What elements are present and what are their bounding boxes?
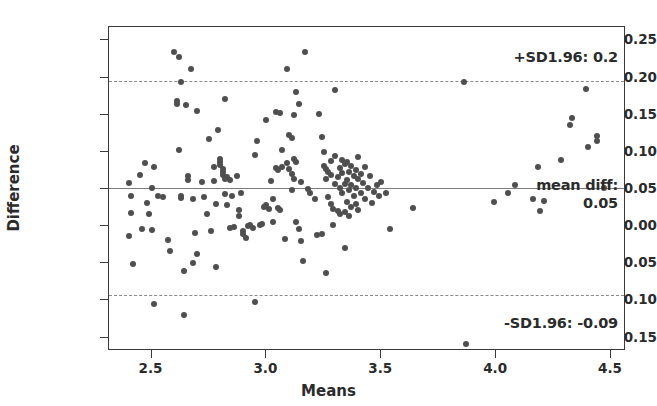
x-tick-label: 4.5 (580, 360, 640, 376)
upper-loa-line (109, 81, 624, 82)
data-point (194, 251, 200, 257)
data-point (583, 86, 589, 92)
data-point (358, 171, 364, 177)
plot-area: +SD1.96: 0.2 mean diff: 0.05 -SD1.96: -0… (108, 26, 625, 350)
x-tick-mark (380, 350, 381, 358)
data-point (206, 136, 212, 142)
data-point (362, 164, 368, 170)
data-point (369, 200, 375, 206)
data-point (293, 89, 299, 95)
data-point (236, 213, 242, 219)
data-point (167, 248, 173, 254)
data-point (174, 101, 180, 107)
data-point (505, 190, 511, 196)
data-point (342, 245, 348, 251)
data-point (535, 164, 541, 170)
data-point (213, 201, 219, 207)
data-point (252, 299, 258, 305)
data-point (211, 178, 217, 184)
lower-loa-annotation: -SD1.96: -0.09 (504, 315, 618, 331)
data-point (268, 178, 274, 184)
y-tick-mark (100, 188, 108, 189)
data-point (378, 179, 384, 185)
x-tick-label: 2.5 (121, 360, 181, 376)
data-point (461, 79, 467, 85)
data-point (130, 261, 136, 267)
data-point (176, 54, 182, 60)
data-point (204, 211, 210, 217)
data-point (139, 226, 145, 232)
x-tick-label: 4.0 (465, 360, 525, 376)
upper-loa-annotation: +SD1.96: 0.2 (513, 49, 618, 65)
data-point (387, 226, 393, 232)
data-point (144, 200, 150, 206)
data-point (339, 170, 345, 176)
data-point (178, 195, 184, 201)
data-point (234, 173, 240, 179)
mean-diff-annotation: mean diff: 0.05 (536, 177, 618, 211)
data-point (238, 190, 244, 196)
data-point (567, 122, 573, 128)
data-point (194, 108, 200, 114)
data-point (211, 164, 217, 170)
y-tick-mark (100, 262, 108, 263)
data-point (254, 138, 260, 144)
y-tick-mark (100, 77, 108, 78)
data-point (266, 206, 272, 212)
data-point (250, 225, 256, 231)
y-tick-mark (100, 39, 108, 40)
data-point (149, 227, 155, 233)
x-tick-mark (495, 350, 496, 358)
data-point (330, 222, 336, 228)
data-point (296, 101, 302, 107)
x-tick-mark (151, 350, 152, 358)
mean-diff-value: 0.05 (536, 195, 618, 211)
data-point (128, 193, 134, 199)
y-tick-mark (100, 337, 108, 338)
x-tick-label: 3.0 (235, 360, 295, 376)
data-point (332, 87, 338, 93)
data-point (569, 115, 575, 121)
data-point (594, 138, 600, 144)
data-point (279, 147, 285, 153)
data-point (410, 205, 416, 211)
data-point (252, 152, 258, 158)
data-point (319, 134, 325, 140)
data-point (128, 210, 134, 216)
data-point (512, 182, 518, 188)
data-point (282, 236, 288, 242)
data-point (199, 179, 205, 185)
mean-diff-label: mean diff: (536, 177, 618, 193)
data-point (231, 224, 237, 230)
data-point (291, 112, 297, 118)
data-point (284, 66, 290, 72)
data-point (291, 176, 297, 182)
data-point (300, 258, 306, 264)
data-point (351, 193, 357, 199)
y-axis-label: Difference (5, 144, 23, 231)
data-point (293, 159, 299, 165)
data-point (183, 102, 189, 108)
data-point (190, 260, 196, 266)
data-point (312, 196, 318, 202)
data-point (151, 301, 157, 307)
data-point (142, 160, 148, 166)
data-point (213, 264, 219, 270)
x-tick-label: 3.5 (350, 360, 410, 376)
data-point (346, 213, 352, 219)
data-point (328, 158, 334, 164)
data-point (176, 147, 182, 153)
data-point (165, 237, 171, 243)
data-point (224, 202, 230, 208)
data-point (192, 230, 198, 236)
data-point (259, 221, 265, 227)
x-tick-mark (610, 350, 611, 358)
y-tick-mark (100, 151, 108, 152)
data-point (289, 135, 295, 141)
data-point (146, 211, 152, 217)
data-point (491, 199, 497, 205)
data-point (181, 268, 187, 274)
data-point (293, 219, 299, 225)
data-point (160, 194, 166, 200)
data-point (277, 207, 283, 213)
